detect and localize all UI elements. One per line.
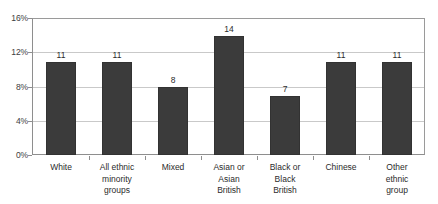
x-axis-tick-mark xyxy=(257,156,258,160)
y-axis-tick-label-8: 8% xyxy=(2,82,28,92)
bar-group: 11 xyxy=(33,19,89,155)
x-axis-category-label: All ethnicminoritygroups xyxy=(89,162,145,197)
bar-chart: 0% 4% 8% 12% 16% 111181471111 WhiteAll e… xyxy=(0,0,438,204)
x-axis-tick-mark xyxy=(201,156,202,160)
x-axis-category-label: Chinese xyxy=(313,162,369,174)
x-axis-category-label-line: British xyxy=(257,185,313,197)
bar-value-label: 11 xyxy=(337,50,346,60)
x-axis-category-label-line: ethnic xyxy=(369,174,425,186)
bar xyxy=(270,96,300,156)
x-axis-category-label-line: Black or xyxy=(257,162,313,174)
bar-value-label: 7 xyxy=(283,84,288,94)
x-axis-category-label-line: groups xyxy=(89,185,145,197)
bar xyxy=(102,62,132,156)
bar-group: 7 xyxy=(257,19,313,155)
x-axis-category-label-line: Other xyxy=(369,162,425,174)
bar xyxy=(326,62,356,156)
x-axis-category-label: Asian orAsianBritish xyxy=(201,162,257,197)
y-axis-tick-4: 4% xyxy=(0,121,28,122)
y-axis-tick-0: 0% xyxy=(0,155,28,156)
y-axis-tick-mark-4 xyxy=(28,121,32,122)
bar xyxy=(214,36,244,155)
bar-value-label: 11 xyxy=(57,50,66,60)
x-axis-category-label: Black orBlackBritish xyxy=(257,162,313,197)
bars-layer: 111181471111 xyxy=(33,19,425,155)
y-axis-tick-16: 16% xyxy=(0,18,28,19)
x-axis-category-label-line: Chinese xyxy=(313,162,369,174)
x-axis-category-label-line: group xyxy=(369,185,425,197)
x-axis-category-label-line: Asian or xyxy=(201,162,257,174)
x-axis-labels: WhiteAll ethnicminoritygroupsMixedAsian … xyxy=(33,162,425,204)
y-axis-tick-label-16: 16% xyxy=(2,13,28,23)
x-axis-category-label-line: White xyxy=(33,162,89,174)
x-axis-category-label-line: Mixed xyxy=(145,162,201,174)
x-axis-tick-mark xyxy=(145,156,146,160)
x-axis-category-label-line: Asian xyxy=(201,174,257,186)
x-axis-category-label-line: All ethnic xyxy=(89,162,145,174)
x-axis-category-label-line: British xyxy=(201,185,257,197)
x-axis-category-label-line: minority xyxy=(89,174,145,186)
x-axis-category-label: White xyxy=(33,162,89,174)
bar xyxy=(158,87,188,155)
x-axis-tick-mark xyxy=(313,156,314,160)
bar-value-label: 11 xyxy=(393,50,402,60)
x-axis-category-label: Mixed xyxy=(145,162,201,174)
bar-value-label: 8 xyxy=(171,75,176,85)
y-axis-tick-mark-16 xyxy=(28,18,32,19)
y-axis-tick-12: 12% xyxy=(0,52,28,53)
bar-group: 11 xyxy=(89,19,145,155)
bar-value-label: 11 xyxy=(113,50,122,60)
y-axis-tick-label-12: 12% xyxy=(2,47,28,57)
y-axis-tick-8: 8% xyxy=(0,87,28,88)
x-axis-category-label: Otherethnicgroup xyxy=(369,162,425,197)
bar-group: 8 xyxy=(145,19,201,155)
bar-group: 11 xyxy=(369,19,425,155)
bar xyxy=(46,62,76,156)
x-axis-tick-mark xyxy=(369,156,370,160)
y-axis-tick-mark-8 xyxy=(28,87,32,88)
y-axis-tick-label-4: 4% xyxy=(2,116,28,126)
bar-group: 14 xyxy=(201,19,257,155)
bar-group: 11 xyxy=(313,19,369,155)
x-axis-category-label-line: Black xyxy=(257,174,313,186)
x-axis-tick-mark xyxy=(89,156,90,160)
bar xyxy=(382,62,412,156)
y-axis-tick-mark-12 xyxy=(28,52,32,53)
y-axis-tick-label-0: 0% xyxy=(2,150,28,160)
y-axis-tick-mark-0 xyxy=(28,155,32,156)
bar-value-label: 14 xyxy=(224,24,233,34)
